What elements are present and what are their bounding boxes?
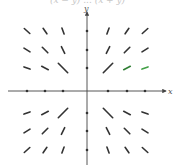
vector-arrow: [43, 28, 47, 34]
vector-arrow: [125, 147, 129, 153]
vector-arrow: [24, 148, 30, 153]
vector-arrow: [43, 147, 47, 153]
vector-arrow: [24, 112, 30, 114]
vector-arrow: [142, 48, 148, 52]
axis-vector-marker: [107, 90, 110, 93]
vector-arrow: [42, 128, 48, 134]
vector-arrow: [124, 128, 130, 134]
vector-arrow: [103, 63, 112, 72]
vector-arrows: [24, 28, 148, 153]
vector-arrow: [42, 47, 48, 53]
vector-arrow: [124, 47, 130, 53]
vector-arrow: [62, 28, 64, 34]
vector-arrow: [24, 67, 30, 69]
axis-vector-marker: [86, 67, 89, 70]
axis-vector-marker: [126, 90, 129, 93]
vector-arrow: [61, 47, 64, 54]
vector-arrow: [142, 29, 148, 34]
axis-vector-marker: [86, 149, 89, 152]
vector-arrow: [61, 128, 64, 135]
vector-field-plot: x y: [0, 0, 175, 167]
axis-vector-marker: [86, 112, 89, 115]
y-axis-label: y: [83, 4, 89, 13]
axis-vector-marker: [44, 90, 47, 93]
axis-vector-marker: [86, 49, 89, 52]
vector-arrow: [58, 63, 67, 72]
vector-arrow: [106, 128, 109, 135]
vector-arrow: [103, 108, 112, 117]
vector-arrow: [124, 111, 131, 114]
vector-arrow: [106, 47, 109, 54]
axis-vector-marker: [144, 90, 147, 93]
vector-arrow: [124, 66, 131, 69]
vector-arrow: [142, 112, 148, 114]
axis-vector-marker: [26, 90, 29, 93]
axis-vector-marker: [86, 30, 89, 33]
vector-arrow: [24, 129, 30, 133]
vector-arrow: [107, 28, 109, 34]
axis-vector-marker: [62, 90, 65, 93]
vector-arrow: [62, 147, 64, 153]
vector-arrow: [142, 129, 148, 133]
x-axis-label: x: [168, 87, 173, 96]
vector-arrow: [107, 147, 109, 153]
vector-arrow: [142, 67, 148, 69]
vector-arrow: [142, 148, 148, 153]
vector-arrow: [42, 111, 49, 114]
vector-arrow: [42, 66, 49, 69]
vector-arrow: [125, 28, 129, 34]
vector-arrow: [58, 108, 67, 117]
axis-vector-marker: [86, 130, 89, 133]
vector-arrow: [24, 48, 30, 52]
vector-arrow: [24, 29, 30, 34]
